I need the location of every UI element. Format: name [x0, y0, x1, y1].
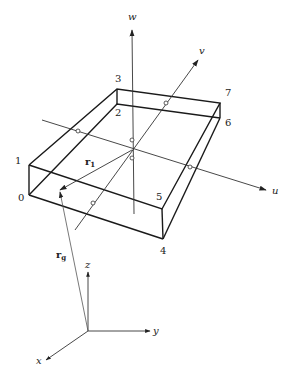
- edge-6-4: [163, 118, 220, 239]
- vertex-label-7: 7: [225, 87, 231, 98]
- r1-label: r1: [85, 156, 95, 169]
- x-axis: [46, 331, 88, 360]
- box-top-face: [29, 89, 220, 209]
- vertex-label-3: 3: [115, 73, 121, 84]
- v-axis-label: v: [199, 45, 205, 56]
- vertex-label-0: 0: [18, 192, 24, 203]
- rigid-body-coordinate-diagram: w v u z y x 0 1 2 3 4 5 6 7 r1 rg: [0, 0, 293, 377]
- local-frame: [42, 30, 266, 230]
- w-axis: [132, 30, 134, 214]
- vertex-label-2: 2: [115, 107, 121, 118]
- face-center-marker: [130, 138, 134, 142]
- vertex-label-5: 5: [156, 191, 162, 202]
- face-center-marker: [188, 165, 192, 169]
- x-axis-label: x: [36, 355, 42, 366]
- u-axis: [42, 120, 266, 190]
- w-axis-label: w: [128, 11, 137, 22]
- face-center-marker: [76, 129, 80, 133]
- z-axis-label: z: [84, 259, 91, 270]
- rg-label: rg: [56, 249, 66, 262]
- y-axis-label: y: [152, 325, 159, 336]
- face-center-marker: [130, 156, 134, 160]
- r1-vector: [60, 150, 132, 190]
- box-body: [29, 89, 220, 239]
- face-center-marker: [91, 201, 95, 205]
- vertex-label-1: 1: [15, 155, 21, 166]
- face-center-marker: [164, 101, 168, 105]
- vertex-label-4: 4: [160, 245, 166, 256]
- vertex-label-6: 6: [225, 117, 231, 128]
- edge-5-4: [162, 209, 163, 239]
- u-axis-label: u: [272, 185, 278, 196]
- box-back-edges: [29, 104, 220, 195]
